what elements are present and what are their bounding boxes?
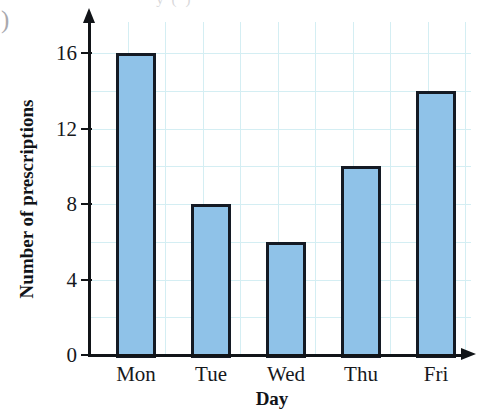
y-tick-mark <box>81 279 92 281</box>
bar-wed <box>266 242 306 358</box>
x-axis-arrow-icon <box>461 348 476 360</box>
bar-tue <box>191 204 231 358</box>
y-tick-label-0: 0 <box>67 343 78 368</box>
y-tick-mark <box>81 203 92 205</box>
y-tick-mark <box>81 128 92 130</box>
grid-line-vertical <box>465 22 466 355</box>
y-axis-line <box>88 20 91 357</box>
grid-line-vertical <box>315 22 316 355</box>
x-tick-label-tue: Tue <box>195 362 227 387</box>
plot-area <box>90 22 471 355</box>
y-tick-mark <box>81 52 92 54</box>
top-caption-remnant: · · · y (·) · <box>118 0 205 8</box>
bar-fri <box>416 91 456 358</box>
y-tick-mark <box>81 354 92 356</box>
bar-mon <box>116 53 156 358</box>
x-tick-label-fri: Fri <box>424 362 449 387</box>
grid-line-vertical <box>390 22 391 355</box>
x-axis-line <box>88 354 463 357</box>
y-tick-label-16: 16 <box>56 41 77 66</box>
y-axis-arrow-icon <box>83 8 95 23</box>
x-tick-label-wed: Wed <box>267 362 305 387</box>
y-tick-label-8: 8 <box>67 192 78 217</box>
grid-line-vertical <box>165 22 166 355</box>
bar-thu <box>341 166 381 358</box>
y-tick-label-4: 4 <box>67 267 78 292</box>
grid-line-vertical <box>240 22 241 355</box>
y-tick-label-12: 12 <box>56 116 77 141</box>
left-margin-marker: ) <box>1 6 9 34</box>
x-axis-title: Day <box>256 388 289 410</box>
y-axis-title: Number of prescriptions <box>16 74 38 324</box>
chart-page: · · · y (·) · ) 0481216 MonTueWedThuFri … <box>0 0 488 415</box>
x-tick-label-mon: Mon <box>116 362 156 387</box>
x-tick-label-thu: Thu <box>344 362 378 387</box>
